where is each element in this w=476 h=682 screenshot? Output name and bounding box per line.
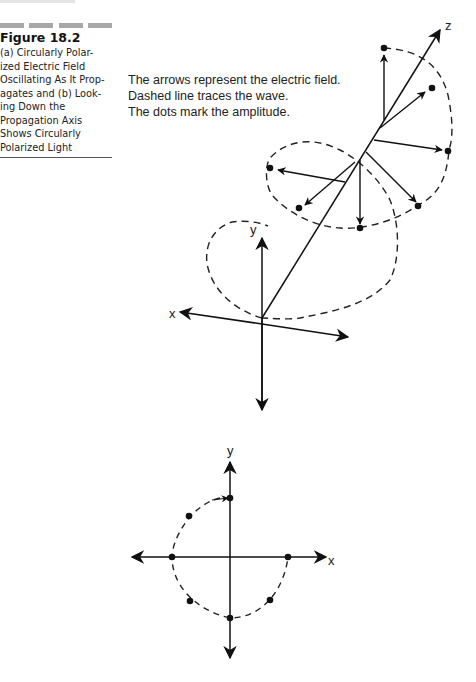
z-axis	[262, 30, 440, 318]
amplitude-dots-a	[267, 45, 452, 232]
y-axis-label-a: y	[250, 222, 257, 237]
diagram-a: z y x	[169, 18, 452, 410]
x-axis-label-b: x	[328, 553, 335, 568]
y-axis-label-b: y	[227, 443, 234, 458]
x-axis-label-a: x	[169, 306, 176, 321]
diagram-b: y x	[132, 443, 335, 658]
polarization-diagram: z y x	[0, 0, 476, 682]
z-axis-label: z	[445, 18, 452, 33]
electric-field-vectors	[278, 55, 442, 224]
x-axis-a-negative	[262, 324, 348, 337]
